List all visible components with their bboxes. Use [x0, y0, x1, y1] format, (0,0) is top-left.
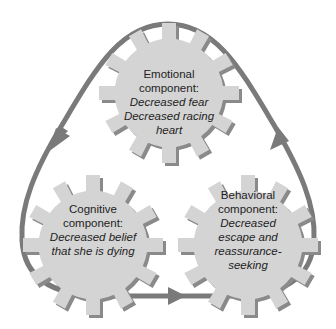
cognitive-title-line-2: component:	[33, 216, 153, 230]
behavioral-body-line-3: reassurance-	[188, 244, 308, 258]
cognitive-title-line-1: Cognitive	[33, 202, 153, 216]
emotional-title-line-2: component:	[109, 81, 229, 95]
behavioral-title-line-1: Behavioral	[188, 188, 308, 202]
emotional-title-line-1: Emotional	[109, 67, 229, 81]
behavioral-body-line-1: Decreased	[188, 216, 308, 230]
emotional-body-line-1: Decreased fear	[109, 95, 229, 109]
cognitive-body-line-2: that she is dying	[33, 244, 153, 258]
cognitive-body-line-1: Decreased belief	[33, 230, 153, 244]
gear-cycle-diagram	[0, 0, 336, 329]
label-behavioral: Behavioral component: Decreased escape a…	[188, 188, 308, 272]
emotional-body-line-2: Decreased racing	[109, 109, 229, 123]
behavioral-title-line-2: component:	[188, 202, 308, 216]
behavioral-body-line-4: seeking	[188, 258, 308, 272]
behavioral-body-line-2: escape and	[188, 230, 308, 244]
arrow-bottom-icon	[168, 287, 186, 305]
emotional-body-line-3: heart	[109, 123, 229, 137]
label-cognitive: Cognitive component: Decreased belief th…	[33, 202, 153, 258]
label-emotional: Emotional component: Decreased fear Decr…	[109, 67, 229, 137]
